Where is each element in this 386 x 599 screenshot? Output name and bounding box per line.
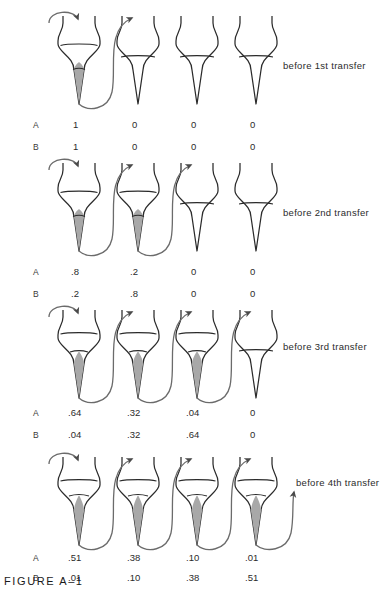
row-4-b-value-3: .38 xyxy=(186,572,199,583)
funnel-r4-c4 xyxy=(235,457,277,545)
row-3-a-value-3: .04 xyxy=(186,407,199,418)
row-4-a-value-1: .51 xyxy=(68,552,81,563)
row-2-funnels xyxy=(49,159,277,255)
funnel-r1-c2 xyxy=(117,16,159,104)
funnel-r2-c3 xyxy=(176,163,218,251)
row-4-label-a: A xyxy=(33,553,39,563)
row-2-b-value-4: 0 xyxy=(250,288,255,299)
row-2-b-value-3: 0 xyxy=(191,288,196,299)
row-1-a-value-3: 0 xyxy=(191,119,196,130)
row-4-b-value-4: .51 xyxy=(245,572,258,583)
funnel-r4-c3 xyxy=(176,457,218,545)
row-4-funnels xyxy=(49,453,294,549)
row-3-label-b: B xyxy=(33,430,39,440)
row-1-b-value-3: 0 xyxy=(191,141,196,152)
figure-caption: FIGURE A–1 xyxy=(4,575,84,587)
row-1-label-a: A xyxy=(33,120,39,130)
row-2-a-value-3: 0 xyxy=(191,266,196,277)
funnel-r3-c1 xyxy=(58,310,100,398)
row-3-b-value-2: .32 xyxy=(127,429,140,440)
row-1-b-value-1: 1 xyxy=(73,141,78,152)
row-3-funnels xyxy=(49,306,277,402)
row-3-b-value-4: 0 xyxy=(250,429,255,440)
funnel-diagram xyxy=(0,0,386,599)
funnel-r2-c1 xyxy=(58,163,100,251)
row-1-label-b: B xyxy=(33,142,39,152)
row-2-a-value-1: .8 xyxy=(71,266,79,277)
stage-label-4: before 4th transfer xyxy=(296,477,379,488)
funnel-r3-c3 xyxy=(176,310,218,398)
row-3-label-a: A xyxy=(33,408,39,418)
stage-label-1: before 1st transfer xyxy=(283,60,366,71)
row-2-b-value-1: .2 xyxy=(71,288,79,299)
figure-a1: before 1st transfer before 2nd transfer … xyxy=(0,0,386,599)
row-3-b-value-1: .04 xyxy=(68,429,81,440)
funnel-r4-c1 xyxy=(58,457,100,545)
row-1-b-value-4: 0 xyxy=(250,141,255,152)
row-1-b-value-2: 0 xyxy=(132,141,137,152)
row-4-a-value-3: .10 xyxy=(186,552,199,563)
row-2-a-value-2: .2 xyxy=(130,266,138,277)
row-1-a-value-4: 0 xyxy=(250,119,255,130)
row-1-a-value-2: 0 xyxy=(132,119,137,130)
row-3-a-value-2: .32 xyxy=(127,407,140,418)
funnel-r2-c2 xyxy=(117,163,159,251)
funnel-r4-c2 xyxy=(117,457,159,545)
funnel-r3-c2 xyxy=(117,310,159,398)
funnel-r1-c1 xyxy=(58,16,100,104)
row-2-a-value-4: 0 xyxy=(250,266,255,277)
row-3-b-value-3: .64 xyxy=(186,429,199,440)
row-4-b-value-2: .10 xyxy=(127,572,140,583)
funnel-r1-c3 xyxy=(176,16,218,104)
row-1-funnels xyxy=(49,12,277,108)
row-4-a-value-2: .38 xyxy=(127,552,140,563)
row-4-a-value-4: .01 xyxy=(245,552,258,563)
funnel-r1-c4 xyxy=(235,16,277,104)
row-2-label-a: A xyxy=(33,267,39,277)
row-2-b-value-2: .8 xyxy=(130,288,138,299)
row-3-a-value-4: 0 xyxy=(250,407,255,418)
funnel-r3-c4 xyxy=(235,310,277,398)
row-3-a-value-1: .64 xyxy=(68,407,81,418)
stage-label-3: before 3rd transfer xyxy=(283,341,367,352)
funnel-r2-c4 xyxy=(235,163,277,251)
row-1-a-value-1: 1 xyxy=(73,119,78,130)
stage-label-2: before 2nd transfer xyxy=(283,207,369,218)
row-2-label-b: B xyxy=(33,289,39,299)
